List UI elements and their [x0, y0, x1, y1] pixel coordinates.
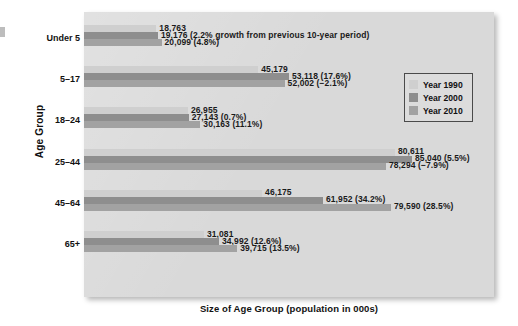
bar-value-label: 61,952 (34.2%) [326, 196, 386, 203]
legend-item: Year 2010 [409, 104, 467, 117]
bar-value-label: 30,163 (11.1%) [203, 121, 262, 128]
x-axis-title: Size of Age Group (population in 000s) [84, 303, 494, 314]
bar-year-1990 [84, 107, 188, 114]
bar-value-label: 52,002 (−2.1%) [288, 80, 348, 87]
bar-value-label: 20,099 (4.8%) [165, 39, 220, 46]
bar-year-2010 [84, 204, 391, 211]
y-axis-tick-label: 65+ [2, 239, 80, 249]
bar-year-2000 [84, 32, 158, 39]
bar-year-1990 [84, 66, 258, 73]
bar-year-2000 [84, 156, 412, 163]
bar-year-2000 [84, 197, 323, 204]
bar-year-2010 [84, 121, 200, 128]
bar-year-2000 [84, 114, 189, 121]
y-axis-tick-label: Under 5 [2, 33, 80, 43]
bar-value-label: 45,179 [261, 66, 288, 73]
y-axis-tick-label: 18–24 [2, 115, 80, 125]
legend-label-1990: Year 1990 [423, 80, 463, 90]
plot-area: 18,76319,176 (2.2% growth from previous … [84, 12, 494, 297]
bar-year-2010 [84, 80, 285, 87]
chart-figure: Age Group Under 55–1718–2425–4445–6465+ … [0, 0, 518, 326]
bar-year-1990 [84, 25, 156, 32]
bar-year-2000 [84, 73, 289, 80]
bar-year-1990 [84, 190, 262, 197]
bar-year-1990 [84, 149, 395, 156]
legend-swatch-2010 [409, 106, 418, 115]
legend-label-2010: Year 2010 [423, 106, 463, 116]
legend-item: Year 2000 [409, 91, 467, 104]
legend: Year 1990 Year 2000 Year 2010 [404, 73, 473, 122]
bar-value-label: 39,715 (13.5%) [240, 245, 300, 252]
y-axis-tick-labels: Under 55–1718–2425–4445–6465+ [0, 0, 80, 326]
legend-swatch-2000 [409, 93, 418, 102]
bar-value-label: 46,175 [265, 189, 292, 196]
y-axis-tick-label: 5–17 [2, 74, 80, 84]
bar-year-2010 [84, 245, 237, 252]
legend-swatch-1990 [409, 80, 418, 89]
legend-label-2000: Year 2000 [423, 93, 463, 103]
bar-value-label: 78,294 (−7.9%) [389, 162, 449, 169]
bar-year-2010 [84, 39, 162, 46]
legend-item: Year 1990 [409, 78, 467, 91]
y-axis-tick-label: 45–64 [2, 198, 80, 208]
y-axis-tick-label: 25–44 [2, 157, 80, 167]
bar-year-2000 [84, 238, 219, 245]
bar-value-label: 79,590 (28.5%) [394, 203, 454, 210]
bar-year-2010 [84, 163, 386, 170]
bar-year-1990 [84, 231, 204, 238]
